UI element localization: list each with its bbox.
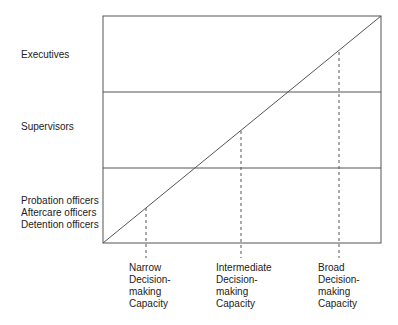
capacity-label-line: Broad — [318, 262, 360, 274]
level-label-line: Detention officers — [21, 219, 99, 231]
capacity-label-line: Decision- — [129, 274, 171, 286]
level-label-line: Aftercare officers — [21, 207, 99, 219]
capacity-label-line: Decision- — [318, 274, 360, 286]
capacity-label-broad: Broad Decision- making Capacity — [318, 262, 360, 310]
capacity-label-line: Narrow — [129, 262, 171, 274]
capacity-label-line: Capacity — [216, 298, 272, 310]
level-label-line-officers: Probation officers Aftercare officers De… — [21, 195, 99, 231]
capacity-label-line: Intermediate — [216, 262, 272, 274]
capacity-label-line: making — [318, 286, 360, 298]
level-label-line: Executives — [21, 49, 69, 61]
capacity-label-line: making — [129, 286, 171, 298]
level-label-supervisors: Supervisors — [21, 121, 74, 133]
level-label-line: Probation officers — [21, 195, 99, 207]
capacity-label-line: Capacity — [318, 298, 360, 310]
capacity-label-narrow: Narrow Decision- making Capacity — [129, 262, 171, 310]
level-label-line: Supervisors — [21, 121, 74, 133]
diagram-canvas: Executives Supervisors Probation officer… — [0, 0, 398, 325]
capacity-label-line: making — [216, 286, 272, 298]
capacity-label-line: Capacity — [129, 298, 171, 310]
level-label-executives: Executives — [21, 49, 69, 61]
capacity-label-intermediate: Intermediate Decision- making Capacity — [216, 262, 272, 310]
capacity-label-line: Decision- — [216, 274, 272, 286]
